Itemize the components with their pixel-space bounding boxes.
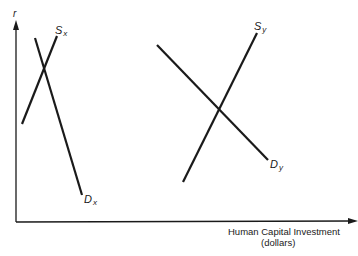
curve-dy [157,45,268,160]
label-sx: Sx [55,24,68,38]
x-axis-units: (dollars) [261,237,295,248]
label-sy: Sy [254,20,267,34]
label-dx: Dx [84,193,98,207]
axes [16,28,352,222]
x-axis-label: Human Capital Investment [228,226,340,237]
curve-sy [183,33,257,182]
y-axis-label: r [13,8,17,19]
x-axis-arrow-icon [348,218,358,224]
y-axis-arrow-icon [13,20,19,30]
label-dy: Dy [270,158,284,172]
curve-dx [35,38,82,195]
chart-canvas: r Human Capital Investment (dollars) Sx … [0,0,358,256]
x-axis [16,221,352,222]
